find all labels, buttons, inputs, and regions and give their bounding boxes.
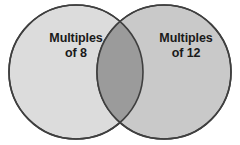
venn-diagram-canvas [0, 0, 240, 145]
venn-diagram: Multiples of 8 Multiples of 12 [0, 0, 240, 145]
